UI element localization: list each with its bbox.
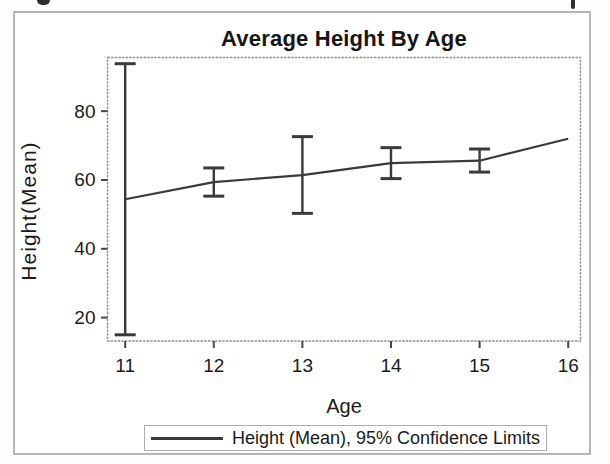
legend-label: Height (Mean), 95% Confidence Limits [232,429,540,447]
x-tick-label: 13 [292,355,313,376]
x-axis-label: Age [108,395,580,417]
x-tick-label: 11 [115,355,135,376]
mean-line [125,139,568,200]
x-tick-label: 14 [380,355,402,376]
x-tick-label: 16 [558,355,579,376]
y-tick-label: 60 [74,169,95,190]
x-tick-label: 15 [469,355,490,376]
x-tick-label: 12 [203,355,224,376]
y-tick-label: 20 [74,307,95,328]
plot-frame [108,58,581,342]
scanned-page: Average Height By Age Height(Mean) 20406… [0,0,610,464]
legend: Height (Mean), 95% Confidence Limits [144,425,547,451]
y-tick-label: 80 [74,101,95,122]
legend-line-swatch [151,437,223,440]
y-tick-label: 40 [74,238,95,259]
